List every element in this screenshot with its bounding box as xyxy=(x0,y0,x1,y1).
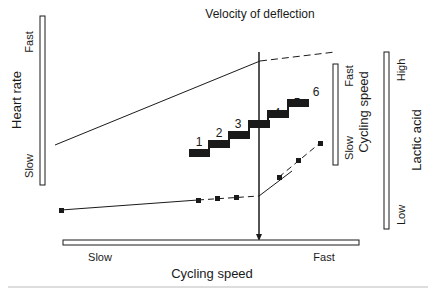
lactic-acid-rise-line xyxy=(259,171,292,196)
step-3 xyxy=(229,131,250,139)
cycling-speed-slow-label: Slow xyxy=(88,251,112,263)
data-point xyxy=(318,141,323,146)
cycling-speed-axis-bar xyxy=(63,240,359,245)
cycling-speed-right-slow-label: Slow xyxy=(343,136,355,160)
step-label-6: 6 xyxy=(313,85,320,99)
stage-steps xyxy=(189,99,309,157)
conconi-test-diagram: Fast Heart rate Slow Velocity of deflect… xyxy=(0,0,437,294)
heart-rate-plateau-dashed-line xyxy=(260,52,335,61)
heart-rate-slow-label: Slow xyxy=(23,154,35,178)
step-4 xyxy=(249,120,270,128)
lactic-acid-high-label: High xyxy=(395,59,407,82)
step-label-3: 3 xyxy=(235,117,242,131)
cycling-speed-axis-label: Cycling speed xyxy=(171,266,253,281)
step-riser xyxy=(208,140,210,157)
step-riser xyxy=(228,131,230,148)
data-point xyxy=(277,175,282,180)
data-point xyxy=(59,208,64,213)
lactic-acid-axis-bar xyxy=(384,52,389,229)
lactic-acid-low-label: Low xyxy=(395,205,407,225)
lactic-acid-axis-label: Lactic acid xyxy=(409,109,424,170)
data-point xyxy=(196,198,201,203)
data-point xyxy=(234,195,239,200)
step-label-4: 4 xyxy=(274,106,281,120)
cycling-speed-right-axis-label: Cycling speed xyxy=(356,71,371,153)
data-point xyxy=(296,158,301,163)
step-1 xyxy=(189,149,210,157)
heart-rate-fast-label: Fast xyxy=(23,31,35,52)
lactic-acid-dashed-line xyxy=(198,196,259,200)
heart-rate-axis-label: Heart rate xyxy=(9,71,24,129)
cycling-speed-right-axis-bar xyxy=(333,64,338,165)
step-riser xyxy=(287,99,289,118)
step-riser xyxy=(248,120,250,139)
step-riser xyxy=(267,110,269,128)
heart-rate-axis-bar xyxy=(40,16,45,185)
data-point xyxy=(215,196,220,201)
cycling-speed-fast-label: Fast xyxy=(313,251,334,263)
velocity-of-deflection-label: Velocity of deflection xyxy=(205,7,314,21)
step-2 xyxy=(209,140,230,148)
step-label-5: 5 xyxy=(294,96,301,110)
lactic-acid-baseline-line xyxy=(61,200,198,210)
cycling-speed-right-fast-label: Fast xyxy=(343,65,355,86)
step-label-1: 1 xyxy=(196,135,203,149)
step-label-2: 2 xyxy=(216,126,223,140)
